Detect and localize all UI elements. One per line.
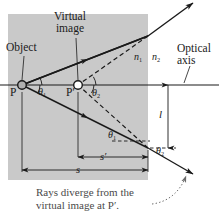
theta2-label-at-interface: θ2 — [156, 146, 164, 156]
optical-axis-label-line1: Optical — [177, 42, 211, 54]
distance-s-prime-label: s′ — [100, 152, 106, 163]
point-p-label: P — [10, 87, 16, 99]
caption-line1: Rays diverge from the — [36, 186, 134, 198]
n2-subscript: 2 — [157, 56, 160, 63]
virtual-image-label-line2: image — [56, 22, 84, 34]
distance-s-label: s — [76, 165, 80, 176]
n1-subscript: 1 — [139, 56, 142, 63]
refractive-index-n1-label: n1 — [134, 52, 142, 62]
theta2-subscript-a: 2 — [97, 92, 100, 99]
point-p-prime-label: P′ — [66, 87, 75, 99]
length-l-label: l — [159, 109, 162, 120]
object-point-marker — [18, 81, 27, 90]
figure-canvas — [0, 0, 219, 216]
refracted-ray-upper — [148, 3, 193, 36]
theta1-subscript-b: 1 — [113, 134, 116, 141]
object-label: Object — [6, 42, 37, 54]
virtual-image-label-line1: Virtual — [54, 10, 86, 22]
figure-caption: Rays diverge from the virtual image at P… — [36, 186, 164, 213]
optical-axis-label-line2: axis — [177, 54, 196, 66]
leader-optical-axis — [184, 66, 190, 83]
virtual-image-label: Virtual image — [54, 11, 86, 34]
optics-refraction-figure: Virtual image Object n1 n2 Optical axis … — [0, 0, 219, 216]
theta1-label-at-interface: θ1 — [108, 130, 116, 140]
theta1-subscript-a: 1 — [43, 91, 46, 98]
refractive-index-n2-label: n2 — [152, 52, 160, 62]
theta2-subscript-b: 2 — [161, 150, 164, 157]
refracted-ray-lower — [148, 148, 193, 174]
theta2-label-at-image: θ2 — [92, 88, 100, 98]
optical-axis-label: Optical axis — [177, 42, 211, 67]
virtual-image-point-marker — [74, 81, 83, 90]
theta1-label-at-object: θ1 — [38, 87, 46, 97]
caption-line2: virtual image at P′. — [36, 199, 119, 211]
